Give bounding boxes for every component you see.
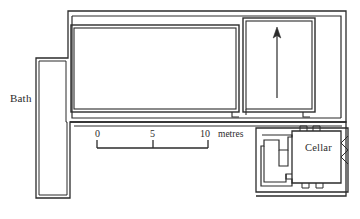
north-arrow-icon [273,27,281,98]
stepped-passage-lower-step [264,146,286,182]
main-hall-inner-wall [74,28,236,109]
outer-wall-inner-face [72,16,341,118]
cellar-bottom-buttresses [302,183,323,188]
stepped-passage-wall [261,135,292,186]
cellar-room-wall [292,131,341,183]
scale-bar [97,140,208,148]
doorway-stub-main-hall [232,112,239,117]
scale-unit-label: metres [218,129,243,139]
main-hall-outer-wall [71,25,239,112]
doorway-stub-arrow-room [303,112,310,117]
cellar-right-recesses [341,136,348,164]
stepped-passage-inner-step [279,150,288,166]
outer-perimeter-wall [36,11,346,198]
room-label-cellar: Cellar [305,142,332,153]
upper-block-left-inner-face [72,16,341,118]
room-label-bath: Bath [10,92,32,104]
bath-wing-inner-wall [39,61,67,195]
scale-tick-label-5: 5 [150,128,155,139]
scale-tick-label-10: 10 [200,128,210,139]
site-plan-figure [0,0,360,219]
scale-tick-label-0: 0 [95,128,100,139]
